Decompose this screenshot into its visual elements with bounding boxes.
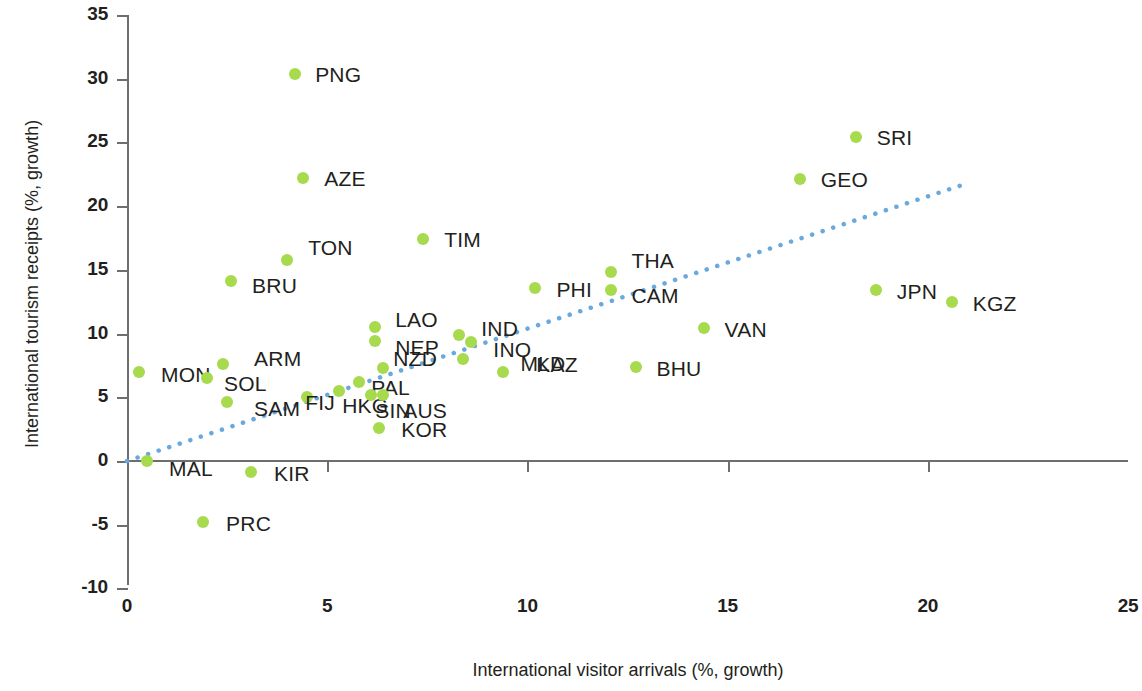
data-point[interactable]	[369, 335, 381, 347]
y-tick-mark	[117, 270, 128, 272]
data-point-label: VAN	[725, 318, 767, 342]
data-point[interactable]	[133, 366, 145, 378]
data-point-label: MAL	[169, 457, 213, 481]
data-point[interactable]	[605, 284, 617, 296]
data-point[interactable]	[377, 389, 389, 401]
data-point[interactable]	[698, 322, 710, 334]
data-point[interactable]	[201, 372, 213, 384]
y-tick-label: 10	[40, 322, 108, 344]
y-tick-label: 0	[40, 449, 108, 471]
data-point-label: LAO	[395, 308, 438, 332]
data-point-label: KIR	[274, 462, 310, 486]
data-point-label: SAM	[254, 397, 300, 421]
data-point[interactable]	[417, 233, 429, 245]
data-point[interactable]	[141, 455, 153, 467]
x-tick-mark	[327, 462, 329, 472]
data-point-label: BHU	[657, 357, 702, 381]
data-point[interactable]	[221, 396, 233, 408]
data-point-label: CAM	[631, 284, 678, 308]
x-tick-mark	[527, 462, 529, 472]
data-point-label: NZD	[393, 347, 437, 371]
data-point[interactable]	[245, 466, 257, 478]
data-point[interactable]	[297, 172, 309, 184]
data-point[interactable]	[453, 329, 465, 341]
data-point-label: TIM	[444, 228, 481, 252]
data-point-label: IND	[481, 317, 518, 341]
data-point[interactable]	[794, 173, 806, 185]
x-tick-label: 0	[87, 595, 167, 617]
x-tick-label: 15	[688, 595, 768, 617]
data-point[interactable]	[497, 366, 509, 378]
data-point-label: JPN	[897, 280, 937, 304]
y-tick-mark	[117, 461, 128, 463]
data-point-label: SRI	[877, 126, 913, 150]
data-point[interactable]	[353, 376, 365, 388]
x-tick-label: 5	[287, 595, 367, 617]
data-point[interactable]	[630, 361, 642, 373]
y-tick-label: 15	[40, 258, 108, 280]
data-point[interactable]	[946, 296, 958, 308]
y-tick-mark	[117, 588, 128, 590]
data-point[interactable]	[529, 282, 541, 294]
y-tick-mark	[117, 334, 128, 336]
y-tick-label: 25	[40, 130, 108, 152]
data-point[interactable]	[369, 321, 381, 333]
data-point[interactable]	[850, 131, 862, 143]
data-point[interactable]	[289, 68, 301, 80]
data-point-label: KGZ	[973, 292, 1017, 316]
y-tick-label: 35	[40, 3, 108, 25]
data-point-label: GEO	[821, 168, 868, 192]
data-point-label: KAZ	[536, 353, 577, 377]
data-point[interactable]	[197, 516, 209, 528]
y-axis-line	[127, 15, 129, 585]
data-point[interactable]	[377, 362, 389, 374]
data-point[interactable]	[465, 336, 477, 348]
data-point-label: BRU	[252, 274, 297, 298]
scatter-chart: International tourism receipts (%, growt…	[0, 0, 1142, 691]
data-point-label: ARM	[254, 347, 301, 371]
y-tick-mark	[117, 79, 128, 81]
y-tick-mark	[117, 15, 128, 17]
data-point-label: PRC	[226, 512, 271, 536]
x-tick-mark	[728, 462, 730, 472]
y-tick-mark	[117, 397, 128, 399]
data-point-label: FIJ	[305, 391, 335, 415]
y-tick-mark	[117, 142, 128, 144]
data-point[interactable]	[373, 422, 385, 434]
data-point-label: PNG	[315, 63, 361, 87]
trend-line	[0, 0, 1142, 691]
y-tick-label: 5	[40, 385, 108, 407]
x-tick-mark	[928, 462, 930, 472]
data-point[interactable]	[457, 353, 469, 365]
x-tick-label: 20	[888, 595, 968, 617]
y-tick-label: -5	[40, 513, 108, 535]
data-point-label: KOR	[401, 418, 447, 442]
data-point[interactable]	[605, 266, 617, 278]
data-point[interactable]	[217, 358, 229, 370]
data-point-label: TON	[308, 236, 353, 260]
data-point-label: PHI	[556, 278, 592, 302]
y-tick-mark	[117, 525, 128, 527]
x-tick-label: 10	[487, 595, 567, 617]
data-point-label: AZE	[324, 167, 365, 191]
data-point-label: SOL	[224, 372, 267, 396]
data-point[interactable]	[225, 275, 237, 287]
y-tick-mark	[117, 206, 128, 208]
x-axis-title: International visitor arrivals (%, growt…	[328, 660, 928, 681]
y-tick-label: 30	[40, 67, 108, 89]
x-tick-label: 25	[1088, 595, 1142, 617]
y-tick-label: 20	[40, 194, 108, 216]
data-point[interactable]	[870, 284, 882, 296]
data-point[interactable]	[281, 254, 293, 266]
data-point-label: THA	[631, 249, 674, 273]
